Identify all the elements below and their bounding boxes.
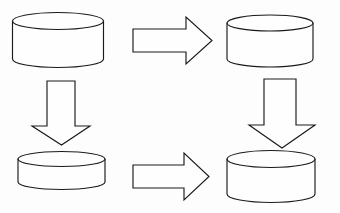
database-cylinder-bottom-left[interactable] [18,152,105,190]
arrow-right-top[interactable] [133,17,212,64]
database-cylinder-top-ellipse [18,152,105,167]
database-cylinder-top-left[interactable] [13,13,104,68]
database-cylinder-top-ellipse [227,151,315,168]
database-cylinder-top-right[interactable] [227,15,313,67]
database-cylinder-top-ellipse [13,13,104,30]
arrow-right-icon [133,153,209,200]
arrow-down-left[interactable] [32,81,90,145]
diagram-canvas [0,0,340,213]
arrow-down-right[interactable] [249,79,315,148]
arrow-right-bottom[interactable] [133,153,209,200]
arrow-down-icon [249,79,315,148]
diagram-svg [0,0,340,213]
database-cylinder-top-ellipse [227,15,313,31]
database-cylinder-bottom-right[interactable] [227,151,315,203]
arrow-down-icon [32,81,90,145]
arrow-right-icon [133,17,212,64]
